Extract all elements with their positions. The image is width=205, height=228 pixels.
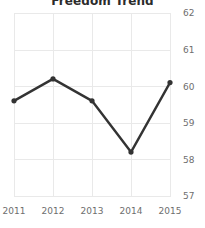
data-point-2013 <box>89 98 94 103</box>
x-tick-label-2011: 2011 <box>3 206 26 216</box>
x-tick-label-2013: 2013 <box>81 206 104 216</box>
x-tick-label-2012: 2012 <box>42 206 65 216</box>
y-tick-label-57: 57 <box>183 191 194 201</box>
data-point-2015 <box>167 80 172 85</box>
y-tick-label-61: 61 <box>183 45 194 55</box>
y-axis-tick-labels: 575859606162 <box>183 8 195 201</box>
data-point-2012 <box>50 76 55 81</box>
y-tick-label-62: 62 <box>183 8 194 18</box>
data-point-2011 <box>11 98 16 103</box>
x-axis-tick-labels: 20112012201320142015 <box>3 206 182 216</box>
x-tick-label-2015: 2015 <box>159 206 182 216</box>
y-tick-label-60: 60 <box>183 82 195 92</box>
vertical-gridlines <box>15 13 171 196</box>
chart-plot-area: 575859606162 20112012201320142015 <box>0 0 205 228</box>
y-tick-label-59: 59 <box>183 118 195 128</box>
data-point-2014 <box>128 149 133 154</box>
y-tick-label-58: 58 <box>183 155 195 165</box>
x-tick-label-2014: 2014 <box>120 206 143 216</box>
line-chart: Freedom Trend 575859606162 2011201220132… <box>0 0 205 228</box>
